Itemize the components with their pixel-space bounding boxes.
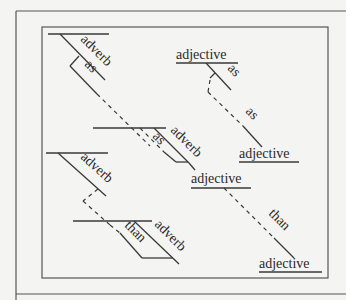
label-middle-as: as [150, 129, 169, 148]
top-left-adverb-group: adverb as [48, 32, 115, 94]
bottom-right-adjective-group: adjective [259, 256, 322, 272]
center-adjective-group: adjective [191, 171, 251, 188]
mid-right-adjective-group: adjective [239, 146, 299, 162]
sentence-diagram: adverb as adjective as as adjective as a… [0, 0, 346, 300]
label-bottom-than: than [122, 218, 150, 246]
label-top-right-adjective: adjective [176, 47, 227, 62]
label-bottom-adverb: adverb [152, 217, 190, 255]
label-bottom-left-adverb: adverb [78, 149, 116, 186]
bottom-than-adverb-group: than adverb [73, 217, 189, 264]
middle-as-adverb-group: as adverb [93, 123, 205, 170]
label-dashed-than: than [266, 206, 294, 234]
dashed-than-connector: than [224, 188, 294, 258]
dashed-connector-top-left [97, 94, 150, 146]
bottom-left-adverb-group: adverb [46, 149, 116, 225]
label-center-adjective: adjective [191, 171, 242, 186]
dashed-as-connector: as [208, 80, 262, 147]
label-middle-adverb: adverb [168, 123, 206, 161]
label-bottom-right-adjective: adjective [259, 256, 310, 271]
label-dashed-as: as [243, 104, 262, 123]
label-mid-right-adjective: adjective [239, 146, 290, 161]
